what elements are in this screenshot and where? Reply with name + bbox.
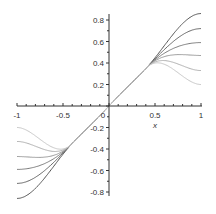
x-axis-label: x <box>152 121 158 130</box>
x-tick-label: 1 <box>199 111 204 120</box>
x-tick-label: 0.5 <box>149 111 161 120</box>
x-tick-label: -0.5 <box>56 111 70 120</box>
x-tick-label: -1 <box>13 111 21 120</box>
y-tick-label: 0.6 <box>93 38 105 47</box>
x-tick-label: 0 <box>101 111 106 120</box>
chart: -1 -0.5 0 0.5 1 x 0.8 0.6 0.4 0.2 -0.2 -… <box>0 0 216 214</box>
plot-area: -1 -0.5 0 0.5 1 x 0.8 0.6 0.4 0.2 -0.2 -… <box>0 0 216 214</box>
y-tick-label: -0.8 <box>90 188 104 197</box>
y-tick-label: 0.2 <box>93 81 105 90</box>
y-tick-label: -0.4 <box>90 145 104 154</box>
y-tick-label: 0.8 <box>93 16 105 25</box>
y-tick-label: -0.2 <box>90 124 104 133</box>
y-tick-label: 0.4 <box>93 59 105 68</box>
y-tick-label: -0.6 <box>90 167 104 176</box>
